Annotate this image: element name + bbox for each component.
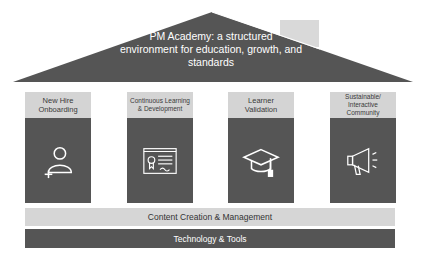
graduation-cap-icon — [242, 142, 280, 180]
roof-title-line: PM Academy: a structured — [100, 30, 322, 43]
pillar-label: Learner Validation — [228, 92, 294, 118]
content-creation-bar: Content Creation & Management — [25, 208, 395, 226]
roof-title-line: standards — [100, 56, 322, 69]
roof-title-line: environment for education, growth, and — [100, 43, 322, 56]
certificate-icon — [141, 142, 179, 180]
pillar-new-hire-onboarding: New Hire Onboarding — [25, 92, 91, 203]
megaphone-icon — [344, 142, 382, 180]
pillar-learner-validation: Learner Validation — [228, 92, 294, 203]
pillar-sustainable-community: Sustainable/ Interactive Community — [330, 92, 396, 203]
technology-tools-bar: Technology & Tools — [25, 229, 395, 248]
pillar-label: Sustainable/ Interactive Community — [330, 92, 396, 118]
pillar-label: New Hire Onboarding — [25, 92, 91, 118]
roof-title: PM Academy: a structured environment for… — [100, 30, 322, 69]
pillar-continuous-learning: Continuous Learning & Development — [127, 92, 193, 203]
pillar-label: Continuous Learning & Development — [127, 92, 193, 118]
add-user-icon — [39, 142, 77, 180]
